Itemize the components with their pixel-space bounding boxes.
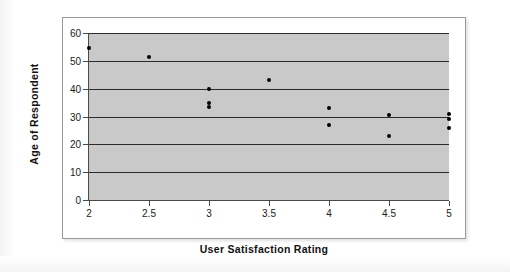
y-axis-title: Age of Respondent [26,28,42,200]
data-point [207,105,211,109]
gridline [89,61,449,62]
x-tick-mark [449,201,450,206]
y-tick-mark [83,144,88,145]
gridline [89,117,449,118]
y-tick-label: 30 [59,111,81,122]
data-point [387,134,391,138]
x-tick-label: 3.5 [252,208,286,219]
plot-area [89,33,449,200]
x-axis-title: User Satisfaction Rating [62,243,466,255]
y-tick-label: 60 [59,28,81,39]
data-point [207,101,211,105]
data-point [207,87,211,91]
gridline [89,144,449,145]
x-tick-label: 4.5 [372,208,406,219]
y-tick-mark [83,33,88,34]
data-point [447,126,451,130]
y-tick-label: 20 [59,139,81,150]
gridline [89,89,449,90]
y-tick-mark [83,200,88,201]
x-tick-label: 3 [192,208,226,219]
page-edge-left [0,0,14,272]
x-tick-mark [329,201,330,206]
data-point [447,112,451,116]
y-tick-mark [83,117,88,118]
y-tick-mark [83,61,88,62]
x-tick-mark [389,201,390,206]
page-edge-bottom [0,256,510,272]
gridline [89,33,449,34]
y-tick-label: 50 [59,55,81,66]
y-tick-mark [83,89,88,90]
x-tick-label: 5 [432,208,466,219]
gridline [89,172,449,173]
x-tick-label: 2 [72,208,106,219]
data-point [327,123,331,127]
x-tick-mark [149,201,150,206]
y-tick-label: 10 [59,167,81,178]
x-tick-label: 4 [312,208,346,219]
chart-frame: 0102030405060 22.533.544.55 [62,17,466,239]
y-tick-mark [83,172,88,173]
y-tick-label: 0 [59,195,81,206]
x-tick-mark [269,201,270,206]
y-tick-label: 40 [59,83,81,94]
data-point [147,55,151,59]
x-tick-mark [89,201,90,206]
x-tick-label: 2.5 [132,208,166,219]
data-point [447,117,451,121]
y-axis-line [88,33,89,201]
x-tick-mark [209,201,210,206]
y-axis-title-label: Age of Respondent [28,63,40,164]
chart-screenshot: Age of Respondent 0102030405060 22.533.5… [0,0,510,272]
